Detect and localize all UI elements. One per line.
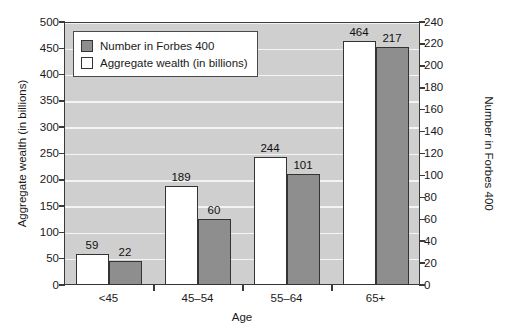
y-axis-right-tick-label: 100 (424, 169, 443, 182)
y-axis-left-tick-mark (59, 100, 65, 102)
y-axis-left-tick-mark (59, 284, 65, 286)
x-axis-tick-label: 65+ (331, 291, 421, 305)
y-axis-left-tick-mark (59, 258, 65, 260)
y-axis-right-tick-label: 60 (424, 213, 437, 226)
x-axis-tick-mark (242, 285, 244, 291)
y-axis-left-tick-mark (59, 153, 65, 155)
y-axis-left-tick-mark (59, 21, 65, 23)
y-axis-right-tick-label: 20 (424, 257, 437, 270)
bar-value-label-aggregate-wealth: 244 (248, 141, 293, 155)
y-axis-right-tick-label: 180 (424, 81, 443, 94)
y-axis-right-tick-label: 240 (424, 16, 443, 29)
y-axis-left-tick-label: 250 (40, 147, 59, 160)
y-axis-left-tick-label: 400 (40, 68, 59, 81)
gridline (65, 22, 419, 24)
legend-swatch-wealth-icon (81, 57, 93, 69)
y-axis-left-tick-mark (59, 126, 65, 128)
y-axis-left-tick-label: 450 (40, 42, 59, 55)
y-axis-right-tick-mark (419, 262, 425, 264)
y-axis-left-title: Aggregate wealth (in billions) (14, 22, 30, 285)
bar-chart-figure: Aggregate wealth (in billions) Number in… (0, 0, 507, 336)
x-axis-tick-mark (331, 285, 333, 291)
y-axis-right-tick-label: 120 (424, 147, 443, 160)
bar-number-in-forbes-400 (198, 219, 231, 285)
bar-value-label-number-in-forbes-400: 22 (103, 245, 148, 259)
y-axis-left-tick-label: 200 (40, 173, 59, 186)
y-axis-right-tick-label: 160 (424, 103, 443, 116)
bar-number-in-forbes-400 (376, 47, 409, 285)
y-axis-left-tick-label: 500 (40, 16, 59, 29)
bar-aggregate-wealth (165, 186, 198, 285)
bar-aggregate-wealth (254, 157, 287, 285)
y-axis-left-tick-label: 100 (40, 226, 59, 239)
y-axis-right-tick-mark (419, 87, 425, 89)
y-axis-right-tick-mark (419, 240, 425, 242)
y-axis-right-tick-mark (419, 153, 425, 155)
legend-swatch-count-icon (81, 40, 93, 52)
chart-legend: Number in Forbes 400 Aggregate wealth (i… (73, 31, 258, 77)
bar-number-in-forbes-400 (109, 261, 142, 285)
y-axis-right-tick-label: 140 (424, 125, 443, 138)
legend-label-wealth: Aggregate wealth (in billions) (100, 57, 248, 69)
y-axis-right-tick-mark (419, 284, 425, 286)
y-axis-right-tick-mark (419, 65, 425, 67)
bar-number-in-forbes-400 (287, 174, 320, 285)
x-axis-tick-label: <45 (64, 291, 154, 305)
y-axis-left-tick-label: 300 (40, 121, 59, 134)
y-axis-left-tick-label: 350 (40, 94, 59, 107)
legend-item-count: Number in Forbes 400 (81, 37, 248, 54)
y-axis-right-tick-label: 220 (424, 37, 443, 50)
x-axis-tick-label: 45–54 (153, 291, 243, 305)
legend-label-count: Number in Forbes 400 (100, 40, 214, 52)
bar-aggregate-wealth (343, 41, 376, 285)
bar-value-label-number-in-forbes-400: 60 (192, 203, 237, 217)
bar-value-label-number-in-forbes-400: 101 (281, 158, 326, 172)
legend-item-wealth: Aggregate wealth (in billions) (81, 54, 248, 71)
y-axis-right-tick-mark (419, 219, 425, 221)
y-axis-left-tick-label: 50 (46, 252, 59, 265)
y-axis-left-tick-mark (59, 74, 65, 76)
y-axis-right-tick-mark (419, 197, 425, 199)
y-axis-left-tick-mark (59, 179, 65, 181)
y-axis-right-tick-label: 80 (424, 191, 437, 204)
y-axis-right-tick-label: 200 (424, 59, 443, 72)
y-axis-right-tick-mark (419, 131, 425, 133)
y-axis-left-tick-label: 150 (40, 200, 59, 213)
y-axis-left-tick-mark (59, 232, 65, 234)
y-axis-right-title: Number in Forbes 400 (481, 22, 497, 285)
y-axis-right-tick-mark (419, 109, 425, 111)
x-axis-tick-mark (153, 285, 155, 291)
y-axis-right-tick-label: 40 (424, 235, 437, 248)
y-axis-left-tick-mark (59, 205, 65, 207)
bar-value-label-number-in-forbes-400: 217 (370, 31, 415, 45)
bar-value-label-aggregate-wealth: 189 (159, 170, 204, 184)
y-axis-left-tick-mark (59, 48, 65, 50)
x-axis-title: Age (64, 311, 420, 323)
x-axis-tick-label: 55–64 (242, 291, 332, 305)
y-axis-right-tick-mark (419, 43, 425, 45)
y-axis-right-tick-mark (419, 175, 425, 177)
y-axis-right-tick-mark (419, 21, 425, 23)
